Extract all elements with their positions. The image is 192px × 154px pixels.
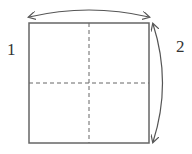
fold-diagram [0,0,192,154]
label-2: 2 [176,38,185,55]
right-double-arrow [153,24,163,142]
top-double-arrow [29,10,149,17]
label-1: 1 [7,41,16,58]
